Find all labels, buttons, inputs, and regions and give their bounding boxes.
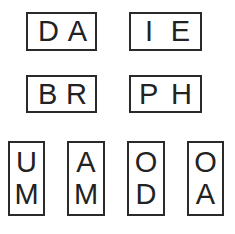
letter: A xyxy=(196,180,215,209)
letter: P xyxy=(139,80,158,109)
letter: H xyxy=(171,80,192,109)
letter: D xyxy=(38,17,59,46)
letter: I xyxy=(145,17,153,46)
letter: A xyxy=(76,148,95,177)
letter-box-um: U M xyxy=(8,141,45,216)
letter: M xyxy=(74,180,98,209)
letter-box-da: D A xyxy=(26,12,97,51)
letter: R xyxy=(66,80,87,109)
letter: O xyxy=(194,148,217,177)
letter: B xyxy=(38,80,57,109)
letter-box-od: O D xyxy=(127,141,165,216)
letter: D xyxy=(136,180,157,209)
letter-box-oa: O A xyxy=(187,141,224,216)
letter: M xyxy=(14,180,38,209)
letter-box-am: A M xyxy=(67,141,105,216)
letter: A xyxy=(68,17,87,46)
letter: U xyxy=(16,148,37,177)
letter-box-br: B R xyxy=(26,75,97,113)
letter-box-ie: I E xyxy=(129,12,202,51)
letter: O xyxy=(135,148,158,177)
letter: E xyxy=(171,17,190,46)
letter-box-ph: P H xyxy=(129,75,202,113)
